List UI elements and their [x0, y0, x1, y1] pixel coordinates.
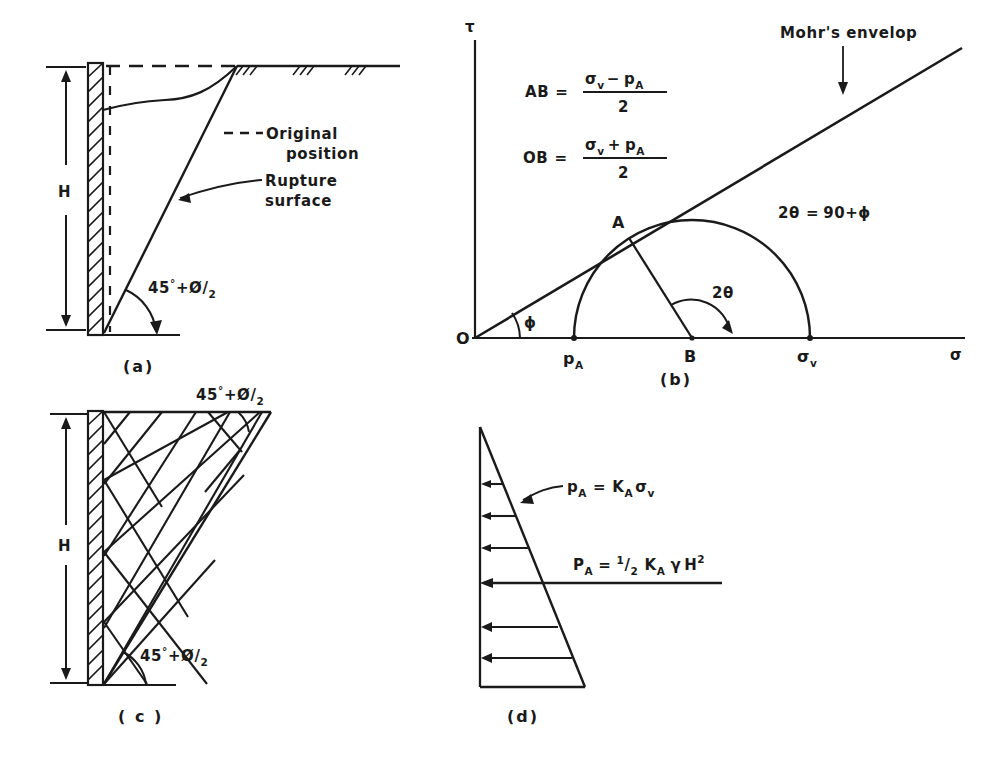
panel-c-angle-bottom-label: 45°+Ø/2: [140, 645, 208, 668]
panel-a-surface-label: surface: [265, 192, 332, 210]
panel-b-point-b-marker: [689, 335, 694, 340]
arrowhead-left-icon: [481, 653, 492, 663]
envelope-arrowhead-icon: [838, 82, 848, 95]
panel-b-formula-ab-denominator: 2: [618, 98, 629, 116]
panel-b-envelope-annotation: Mohr's envelop: [780, 24, 917, 95]
panel-b-caption: (b): [660, 370, 692, 389]
panel-a-angle-label: 45°+Ø/2: [148, 277, 216, 300]
panel-b-phi-angle: ϕ: [512, 313, 537, 338]
arrowhead-up-icon: [61, 70, 71, 82]
arrowhead-left-icon: [481, 512, 491, 520]
panel-a-ground-surface: [236, 66, 400, 75]
panel-c: H: [50, 384, 271, 726]
panel-a-angle-phi: Ø: [189, 279, 202, 297]
panel-b-sigma-axis-label: σ: [950, 346, 962, 364]
panel-b-formula-ab: AB= σv−pA 2: [525, 70, 667, 116]
arrowhead-left-icon: [481, 622, 492, 632]
arrowhead-arc-icon: [150, 320, 162, 335]
panel-a-angle-plus: +: [176, 279, 189, 297]
panel-a-angle-45: 45: [148, 279, 170, 297]
panel-b-point-sigmav-marker: [807, 335, 813, 341]
panel-b-point-pa-label: pA: [563, 349, 584, 371]
panel-b-two-theta-label: 2θ: [712, 284, 734, 302]
arrowhead-down-icon: [61, 315, 71, 327]
panel-b-point-b-label: B: [684, 347, 697, 366]
panel-b-point-pa-marker: [571, 335, 577, 341]
panel-b-formula-ab-numerator: σv−pA: [585, 70, 644, 91]
panel-c-caption: ( c ): [118, 707, 163, 726]
panel-b-mohr-circle: [574, 220, 810, 338]
leader-arrowhead-icon: [178, 193, 191, 203]
panel-b-radius-BA: [629, 238, 692, 338]
panel-b-two-theta-angle: 2θ: [671, 284, 734, 334]
panel-b-formula-ob-numerator: σv+pA: [585, 136, 645, 157]
panel-a-angle-2: 2: [209, 288, 217, 300]
panel-b-origin-label: O: [456, 329, 470, 348]
svg-text:45°+Ø/2: 45°+Ø/2: [148, 277, 216, 300]
arrowhead-up-icon: [61, 417, 71, 429]
panel-d-formula-pa-big: PA=1/2KAγH2: [573, 553, 705, 577]
panel-b-tau-axis-label: τ: [465, 18, 475, 36]
panel-d-pressure-hypotenuse: [480, 427, 585, 687]
panel-c-dimension-H: H: [50, 414, 88, 683]
arrowhead-left-icon: [481, 544, 491, 552]
panel-b-relation-label: 2θ=90+ϕ: [778, 204, 871, 222]
panel-d-formula-pa-small: pA=KAσv: [567, 478, 655, 499]
panel-b-point-a-label: A: [612, 213, 625, 232]
panel-d-pressure-arrows: [484, 484, 572, 658]
panel-d: pA=KAσv PA=1/2KAγH2 (d): [480, 427, 722, 726]
figure-canvas: H: [0, 0, 1005, 765]
panel-a-rupture-label: Rupture: [265, 172, 338, 190]
panel-b: τ σ O ϕ 2θ A B pA: [456, 18, 965, 389]
panel-a-rupture-annotation: Rupture surface: [178, 172, 338, 210]
panel-b-point-sigmav-label: σv: [797, 347, 818, 369]
panel-d-resultant-arrow: [480, 578, 722, 588]
panel-d-pa-leader: [520, 486, 563, 504]
arrowhead-left-icon: [481, 480, 491, 488]
arrowhead-down-icon: [61, 668, 71, 680]
panel-b-phi-label: ϕ: [524, 314, 537, 332]
figure-root: H: [0, 0, 1005, 765]
panel-b-envelope-label: Mohr's envelop: [780, 24, 917, 42]
panel-b-formula-ob: OB= σv+pA 2: [523, 136, 667, 182]
panel-a-original-label: Original: [266, 125, 338, 143]
panel-d-arrowheads: [481, 480, 492, 663]
panel-c-angle-top-label: 45°+Ø/2: [196, 384, 264, 407]
panel-a-settled-surface: [103, 66, 237, 110]
panel-b-formula-ab-lhs: AB=: [525, 83, 568, 101]
panel-a-dimension-H: H: [46, 67, 86, 330]
resultant-arrowhead-icon: [480, 578, 493, 588]
panel-b-formula-ob-lhs: OB=: [523, 149, 568, 167]
panel-a-height-label: H: [58, 183, 71, 201]
panel-a-position-label: position: [286, 145, 359, 163]
panel-a-wall: [88, 63, 103, 335]
panel-c-height-label: H: [58, 537, 71, 555]
two-theta-arrowhead-icon: [722, 320, 733, 334]
panel-d-caption: (d): [507, 707, 539, 726]
panel-a: H: [46, 63, 400, 376]
panel-b-formula-ob-denominator: 2: [618, 164, 629, 182]
panel-a-original-position-legend: Original position: [224, 125, 359, 163]
panel-a-caption: (a): [123, 357, 154, 376]
panel-c-wall: [88, 411, 103, 685]
